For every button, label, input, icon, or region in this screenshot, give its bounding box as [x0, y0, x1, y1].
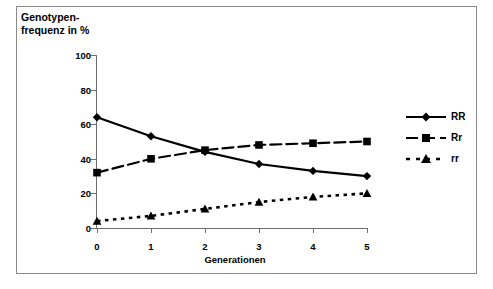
legend-item-rr-dominant[interactable]: RR [405, 110, 475, 131]
data-point-RR-1 [147, 132, 155, 140]
chart-screenshot: Genotypen- frequenz in % 100 80 60 40 20… [0, 0, 493, 289]
legend-item-rr-recessive[interactable]: rr [405, 152, 475, 173]
data-point-Rr-3 [255, 141, 263, 149]
data-point-Rr-1 [147, 155, 155, 163]
data-point-Rr-5 [363, 138, 371, 146]
series-rr [93, 189, 372, 225]
data-point-Rr-2 [201, 146, 209, 154]
data-point-rr-4 [309, 192, 318, 200]
legend-label-0: RR [451, 111, 465, 122]
data-point-rr-5 [363, 189, 372, 197]
legend: RR Rr rr [405, 110, 475, 173]
legend-sample-dashed-square-icon [405, 131, 447, 145]
legend-label-1: Rr [451, 132, 462, 143]
data-point-Rr-0 [93, 169, 101, 177]
legend-label-2: rr [451, 153, 459, 164]
data-point-RR-0 [93, 113, 101, 121]
data-point-RR-4 [309, 167, 317, 175]
data-point-RR-3 [255, 160, 263, 168]
data-point-RR-5 [363, 172, 371, 180]
series-line-rr [97, 193, 367, 221]
legend-sample-line-diamond-icon [405, 110, 447, 124]
legend-sample-dotted-triangle-icon [405, 152, 447, 166]
data-point-Rr-4 [309, 139, 317, 147]
legend-item-rr-hetero[interactable]: Rr [405, 131, 475, 152]
